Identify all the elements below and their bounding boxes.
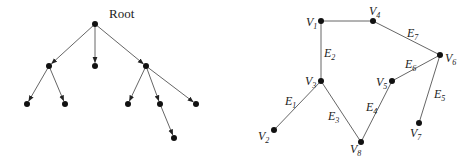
vertex-label: V5 [376, 75, 387, 91]
graph-vertex [370, 18, 376, 24]
tree-edge [52, 24, 95, 64]
tree-node [125, 101, 131, 107]
tree-node [157, 101, 163, 107]
graph-vertex [358, 139, 364, 145]
tree-node [24, 101, 30, 107]
tree-node [92, 63, 98, 69]
vertex-label: V3 [305, 74, 316, 90]
graph-vertex [318, 18, 324, 24]
tree-node [62, 101, 68, 107]
vertex-label: V6 [445, 51, 456, 67]
tree-edge [129, 66, 146, 101]
tree-node [92, 21, 98, 27]
tree-node [143, 63, 149, 69]
vertex-label: V1 [306, 15, 317, 31]
tree-edge [49, 66, 64, 101]
graph-vertex [389, 78, 395, 84]
graph-vertex [271, 127, 277, 133]
tree-node [171, 135, 177, 141]
labeled-graph: E2E7E1E3E4E6E5V1V2V3V4V5V6V7V8 [258, 4, 456, 158]
edge-label: E5 [433, 87, 445, 103]
edge-label: E6 [404, 57, 416, 73]
edge-label: E2 [323, 46, 335, 62]
graph-vertex [318, 78, 324, 84]
vertex-label: V4 [369, 4, 380, 20]
edge-label: E3 [327, 109, 339, 125]
edge-label: E4 [365, 100, 377, 116]
vertex-label: V2 [258, 129, 269, 145]
graph-edge [321, 81, 361, 142]
tree-node [46, 63, 52, 69]
tree-edge [95, 24, 143, 64]
tree-edge [160, 104, 173, 135]
root-label: Root [109, 6, 135, 21]
diagram-canvas: Root E2E7E1E3E4E6E5V1V2V3V4V5V6V7V8 [0, 0, 475, 161]
edge-label: E7 [406, 26, 419, 42]
vertex-label: V7 [410, 126, 422, 142]
rooted-tree [24, 21, 199, 141]
graph-vertex [437, 52, 443, 58]
tree-node [193, 101, 199, 107]
tree-edge [29, 66, 49, 101]
edge-label: E1 [284, 94, 296, 110]
